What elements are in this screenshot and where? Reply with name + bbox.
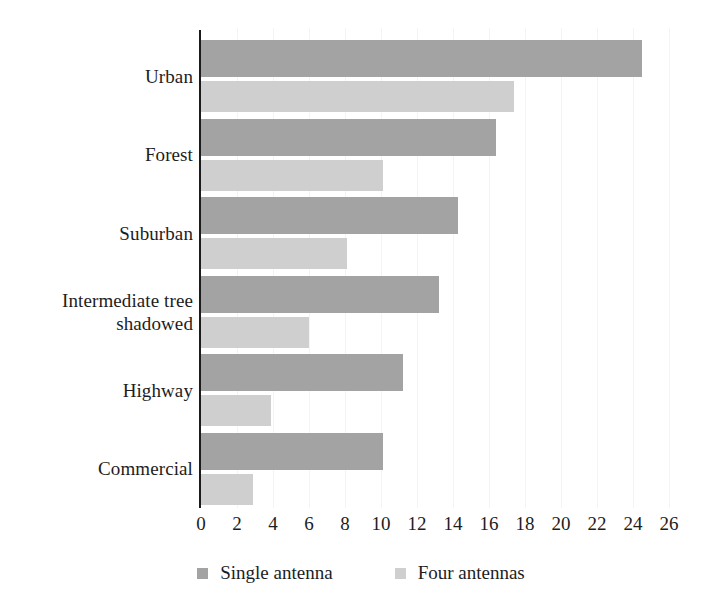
bar-single-antenna xyxy=(201,197,458,234)
x-axis-tick-label: 26 xyxy=(660,512,679,536)
chart-legend: Single antennaFour antennas xyxy=(0,556,722,590)
y-axis-label: Forest xyxy=(3,143,193,166)
bar-single-antenna xyxy=(201,40,642,77)
legend-label: Four antennas xyxy=(418,562,525,584)
x-axis-tick-label: 10 xyxy=(372,512,391,536)
bar-four-antennas xyxy=(201,81,514,112)
y-axis-label: Urban xyxy=(3,65,193,88)
x-axis-tick-label: 18 xyxy=(516,512,535,536)
y-axis-label-line: Suburban xyxy=(3,222,193,245)
y-axis-label: Suburban xyxy=(3,222,193,245)
plot-area xyxy=(201,28,693,508)
bar-group xyxy=(201,354,693,426)
x-axis-tick-label: 2 xyxy=(232,512,242,536)
bar-group xyxy=(201,276,693,348)
x-axis-tick-label: 12 xyxy=(408,512,427,536)
bar-four-antennas xyxy=(201,395,271,426)
y-axis-line xyxy=(199,30,201,508)
legend-item[interactable]: Single antenna xyxy=(197,562,332,584)
legend-label: Single antenna xyxy=(220,562,332,584)
y-axis-label: Highway xyxy=(3,379,193,402)
x-axis-tick-label: 20 xyxy=(552,512,571,536)
legend-swatch-icon xyxy=(197,568,208,579)
y-axis-label-line: Commercial xyxy=(3,457,193,480)
y-axis-category-labels: UrbanForestSuburbanIntermediate treeshad… xyxy=(0,28,193,508)
x-axis-tick-label: 16 xyxy=(480,512,499,536)
y-axis-label-line: Urban xyxy=(3,65,193,88)
bar-group xyxy=(201,197,693,269)
legend-item[interactable]: Four antennas xyxy=(395,562,525,584)
bar-four-antennas xyxy=(201,238,347,269)
x-axis-tick-label: 14 xyxy=(444,512,463,536)
bar-four-antennas xyxy=(201,160,383,191)
legend-swatch-icon xyxy=(395,568,406,579)
x-axis-tick-labels: 02468101214161820222426 xyxy=(201,512,693,542)
y-axis-label: Commercial xyxy=(3,457,193,480)
bar-four-antennas xyxy=(201,474,253,505)
bar-group xyxy=(201,119,693,191)
y-axis-label-line: shadowed xyxy=(3,312,193,335)
bar-single-antenna xyxy=(201,276,439,313)
x-axis-tick-label: 0 xyxy=(196,512,206,536)
x-axis-tick-label: 8 xyxy=(340,512,350,536)
x-axis-tick-label: 6 xyxy=(304,512,314,536)
bar-single-antenna xyxy=(201,354,403,391)
bar-chart: UrbanForestSuburbanIntermediate treeshad… xyxy=(0,0,722,614)
bar-four-antennas xyxy=(201,317,309,348)
bar-single-antenna xyxy=(201,433,383,470)
x-axis-tick-label: 22 xyxy=(588,512,607,536)
y-axis-label-line: Highway xyxy=(3,379,193,402)
y-axis-label-line: Forest xyxy=(3,143,193,166)
y-axis-label: Intermediate treeshadowed xyxy=(3,289,193,335)
x-axis-tick-label: 4 xyxy=(268,512,278,536)
bar-group xyxy=(201,433,693,505)
y-axis-label-line: Intermediate tree xyxy=(3,289,193,312)
bar-group xyxy=(201,40,693,112)
bar-single-antenna xyxy=(201,119,496,156)
x-axis-tick-label: 24 xyxy=(624,512,643,536)
